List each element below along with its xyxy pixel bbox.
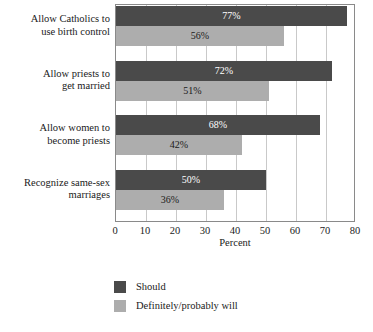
x-tick-label: 70 [310, 224, 340, 237]
bar: 68% [116, 115, 320, 135]
legend-label: Should [136, 281, 166, 293]
x-axis-ticks: 01020304050607080 [115, 224, 355, 238]
category-label-line: Allow Catholics to [0, 13, 110, 26]
bar-value-label: 68% [209, 120, 227, 130]
category-label-line: become priests [0, 135, 110, 148]
plot-area: 77%56%72%51%68%42%50%36% [115, 4, 355, 222]
x-tick-label: 10 [130, 224, 160, 237]
category-label: Allow Catholics touse birth control [0, 13, 110, 38]
bar-value-label: 50% [182, 175, 200, 185]
legend-swatch [114, 281, 126, 293]
bar: 51% [116, 81, 269, 101]
legend-item: Should [114, 277, 238, 296]
bar-chart: Allow Catholics touse birth controlAllow… [0, 0, 373, 332]
category-label: Recognize same-sexmarriages [0, 177, 110, 202]
category-label: Allow women tobecome priests [0, 122, 110, 147]
category-label-line: Allow women to [0, 122, 110, 135]
bar: 72% [116, 61, 332, 81]
bar: 42% [116, 135, 242, 155]
x-tick-label: 20 [160, 224, 190, 237]
x-tick-label: 30 [190, 224, 220, 237]
bars-layer: 77%56%72%51%68%42%50%36% [116, 5, 354, 221]
x-tick-label: 40 [220, 224, 250, 237]
bar: 36% [116, 190, 224, 210]
legend-item: Definitely/probably will [114, 296, 238, 315]
bar: 56% [116, 26, 284, 46]
bar: 77% [116, 6, 347, 26]
bar-value-label: 56% [191, 31, 209, 41]
legend-label: Definitely/probably will [136, 300, 238, 312]
bar: 50% [116, 170, 266, 190]
x-tick-label: 0 [100, 224, 130, 237]
legend: ShouldDefinitely/probably will [114, 277, 238, 315]
bar-value-label: 42% [170, 140, 188, 150]
legend-swatch [114, 300, 126, 312]
bar-value-label: 36% [161, 195, 179, 205]
category-label-line: Recognize same-sex [0, 177, 110, 190]
category-label: Allow priests toget married [0, 68, 110, 93]
category-label-line: Allow priests to [0, 68, 110, 81]
bar-value-label: 77% [222, 11, 240, 21]
category-label-line: get married [0, 80, 110, 93]
x-axis-title: Percent [115, 237, 355, 248]
bar-value-label: 51% [183, 86, 201, 96]
category-label-line: use birth control [0, 26, 110, 39]
x-tick-label: 60 [280, 224, 310, 237]
x-tick-label: 80 [340, 224, 370, 237]
bar-value-label: 72% [215, 66, 233, 76]
category-label-line: marriages [0, 189, 110, 202]
x-tick-label: 50 [250, 224, 280, 237]
